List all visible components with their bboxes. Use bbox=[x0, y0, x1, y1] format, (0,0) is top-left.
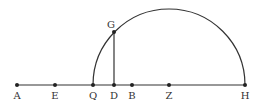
point-A bbox=[15, 83, 19, 87]
semicircle-arc bbox=[93, 9, 245, 85]
point-E bbox=[53, 83, 57, 87]
geometry-diagram: AEQDBZHG bbox=[0, 0, 261, 110]
label-E: E bbox=[51, 90, 58, 101]
label-Z: Z bbox=[166, 90, 173, 101]
label-Q: Q bbox=[89, 90, 97, 101]
label-A: A bbox=[12, 90, 21, 101]
label-B: B bbox=[128, 90, 135, 101]
label-G: G bbox=[107, 19, 115, 30]
point-G bbox=[112, 30, 116, 34]
label-D: D bbox=[110, 90, 118, 101]
label-H: H bbox=[241, 90, 250, 101]
point-D bbox=[112, 83, 116, 87]
point-Z bbox=[167, 83, 171, 87]
point-Q bbox=[91, 83, 95, 87]
point-H bbox=[243, 83, 247, 87]
point-B bbox=[130, 83, 134, 87]
